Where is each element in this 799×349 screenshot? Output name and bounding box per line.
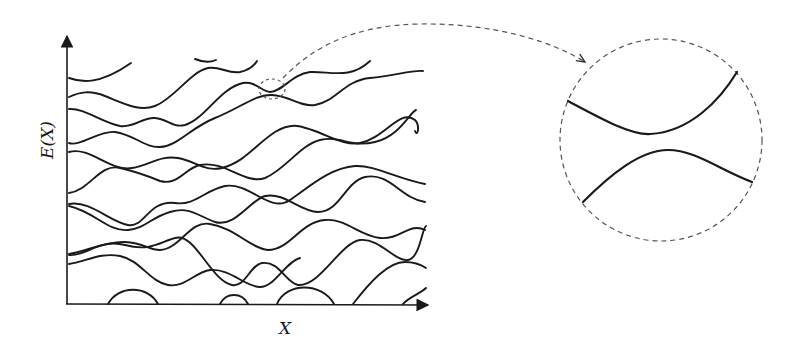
magnify-connector-arrow (283, 24, 585, 78)
energy-curve (69, 226, 426, 285)
magnified-upper-branch (568, 72, 737, 134)
energy-curve (69, 61, 257, 108)
energy-curve (69, 255, 300, 287)
energy-curve (69, 220, 425, 254)
energy-curve (195, 59, 216, 62)
energy-curve (69, 63, 131, 81)
energy-curve (277, 288, 334, 305)
energy-curve (69, 166, 425, 225)
energy-curve (403, 288, 426, 304)
energy-curve (353, 262, 426, 304)
energy-curve (108, 290, 158, 304)
axes (66, 36, 428, 305)
energy-diagram: E(X) X (0, 0, 799, 349)
energy-curve (69, 110, 416, 193)
x-axis-label: X (277, 318, 292, 338)
magnified-view-circle (560, 39, 762, 241)
x-axis (66, 304, 428, 305)
magnified-lower-branch (583, 150, 752, 202)
energy-curve (220, 295, 248, 304)
y-axis-label: E(X) (37, 121, 57, 160)
energy-curve (69, 176, 425, 230)
energy-curves (69, 59, 426, 304)
